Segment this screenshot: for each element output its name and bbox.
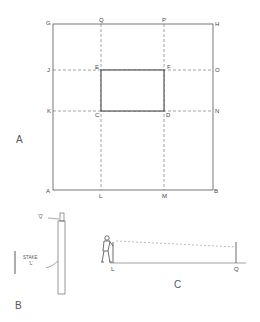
point-j: J	[47, 67, 50, 73]
diagram-canvas	[0, 0, 260, 322]
point-p: P	[162, 17, 166, 23]
point-b: B	[214, 188, 218, 194]
label-stake-l: 'L'	[29, 262, 33, 267]
arrow-stake	[46, 261, 58, 268]
caption-b: B	[15, 301, 22, 311]
point-m: M	[162, 193, 167, 199]
point-n: N	[215, 108, 219, 114]
point-l: L	[99, 193, 102, 199]
stake-top	[60, 213, 64, 221]
point-a: A	[46, 188, 50, 194]
point-h: H	[215, 21, 219, 27]
point-f: F	[167, 64, 171, 70]
stake-body	[58, 221, 65, 294]
point-c: C	[95, 112, 99, 118]
point-l-c: L	[111, 266, 114, 272]
label-q-top: 'Q'	[38, 215, 43, 220]
arrow-q	[48, 218, 59, 219]
inner-rectangle	[101, 70, 164, 111]
point-q-c: Q	[234, 266, 239, 272]
point-o: O	[215, 67, 220, 73]
point-g: G	[46, 20, 51, 26]
point-q: Q	[99, 17, 104, 23]
point-k: K	[47, 108, 51, 114]
point-d: D	[166, 112, 170, 118]
caption-a: A	[16, 135, 23, 145]
point-e: E	[95, 64, 99, 70]
sight-line	[116, 241, 236, 247]
surveyor-figure	[101, 236, 113, 262]
caption-c: C	[174, 280, 181, 290]
